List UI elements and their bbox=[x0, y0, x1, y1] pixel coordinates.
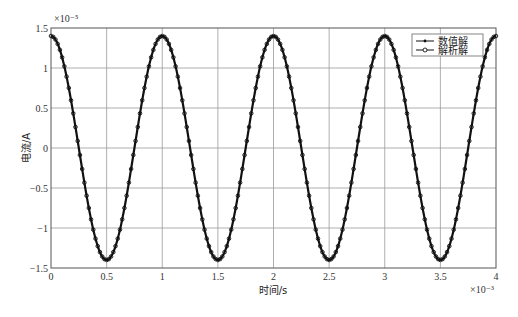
chart: 1.510.50−0.5−1−1.5 00.511.522.533.54 ×10… bbox=[0, 0, 518, 317]
y-tick-label: 0.5 bbox=[36, 103, 49, 114]
y-tick-labels: 1.510.50−0.5−1−1.5 bbox=[30, 23, 48, 274]
x-tick-label: 1 bbox=[160, 271, 165, 282]
grid-lines bbox=[51, 28, 496, 268]
x-tick-label: 2 bbox=[271, 271, 276, 282]
x-tick-label: 3 bbox=[382, 271, 387, 282]
x-tick-label: 3.5 bbox=[434, 271, 447, 282]
y-tick-label: −1.5 bbox=[30, 263, 48, 274]
circle-marker-icon bbox=[423, 48, 427, 52]
y-tick-label: 0 bbox=[43, 143, 48, 154]
legend: 数值解 解析解 bbox=[412, 34, 483, 56]
x-axis-label: 时间/s bbox=[259, 284, 288, 296]
y-multiplier: ×10⁻⁵ bbox=[54, 13, 78, 24]
dot-marker-icon bbox=[424, 40, 427, 43]
y-tick-label: −0.5 bbox=[30, 183, 48, 194]
x-tick-label: 1.5 bbox=[212, 271, 225, 282]
x-tick-labels: 00.511.522.533.54 bbox=[49, 271, 499, 282]
x-tick-label: 4 bbox=[494, 271, 499, 282]
x-tick-label: 2.5 bbox=[323, 271, 336, 282]
x-multiplier: ×10⁻³ bbox=[470, 284, 494, 295]
y-axis-label: 电流/A bbox=[20, 133, 32, 163]
legend-label-analytic: 解析解 bbox=[438, 44, 468, 56]
y-tick-label: 1 bbox=[43, 63, 48, 74]
y-tick-label: −1 bbox=[37, 223, 48, 234]
y-tick-label: 1.5 bbox=[36, 23, 49, 34]
x-tick-label: 0.5 bbox=[100, 271, 113, 282]
x-tick-label: 0 bbox=[49, 271, 54, 282]
